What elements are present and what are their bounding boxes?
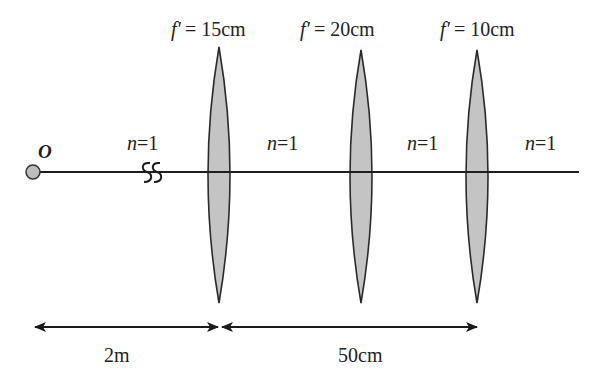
medium-3-label: n=1 bbox=[407, 132, 438, 154]
lens-3 bbox=[466, 50, 488, 303]
lens-1-focal-label: f′= 15cm bbox=[171, 18, 246, 41]
medium-2-label: n=1 bbox=[267, 132, 298, 154]
medium-1-label: n=1 bbox=[127, 132, 158, 154]
medium-4-label: n=1 bbox=[525, 132, 556, 154]
object-point-icon bbox=[26, 165, 40, 179]
optical-diagram: O f′= 15cm f′= 20cm f′= 10cm n=1 n=1 n=1… bbox=[0, 0, 603, 388]
lens-2 bbox=[350, 50, 372, 303]
object-label: O bbox=[38, 141, 52, 162]
dimension-label-2m: 2m bbox=[104, 344, 130, 366]
dimension-label-50cm: 50cm bbox=[338, 344, 383, 366]
lens-3-focal-label: f′= 10cm bbox=[440, 18, 515, 41]
lens-2-focal-label: f′= 20cm bbox=[300, 18, 375, 41]
lens-1 bbox=[208, 47, 230, 303]
